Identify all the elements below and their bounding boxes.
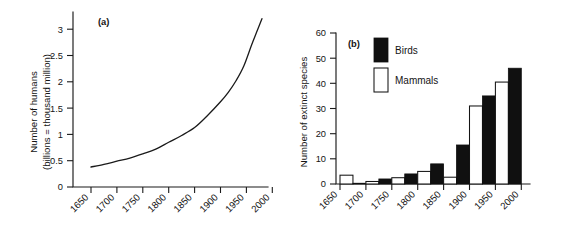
bar-mammals-1750-1800 <box>392 178 405 184</box>
bar-birds-1850-1900 <box>457 145 470 184</box>
y-tick-label-b-10: 10 <box>316 154 326 164</box>
bar-birds-1900-1950 <box>482 96 495 184</box>
x-tick-label-b-1750: 1750 <box>368 189 391 212</box>
y-axis-label-b: Number of extinct species <box>298 57 309 168</box>
y-tick-label-b-40: 40 <box>316 79 326 89</box>
x-tick-label-a-2000: 2000 <box>249 192 272 215</box>
x-tick-label-b-1900: 1900 <box>446 189 469 212</box>
y-axis-ticks-a: 3 2.5 2 1.5 1 0.5 0 <box>50 25 73 193</box>
x-tick-label-b-1850: 1850 <box>420 189 443 212</box>
chart-panel-a: Number of humans (billions = thousand mi… <box>0 0 290 235</box>
bar-mammals-1650-1700 <box>340 175 353 184</box>
bar-birds-1750-1800 <box>405 174 418 184</box>
x-tick-label-a-1900: 1900 <box>197 192 220 215</box>
bar-birds-1950-2000 <box>508 68 521 184</box>
x-tick-label-a-1800: 1800 <box>145 192 168 215</box>
x-tick-label-a-1650: 1650 <box>68 192 91 215</box>
bar-mammals-1950-2000 <box>495 82 508 184</box>
x-axis-ticks-b: 1650 1700 1750 1800 1850 1900 1950 2000 <box>317 184 522 212</box>
y-axis-label-a-line1: Number of humans <box>28 71 39 153</box>
y-tick-label-a-0p5: 0.5 <box>50 156 63 166</box>
bar-mammals-1700-1750 <box>366 181 379 184</box>
y-tick-label-a-0: 0 <box>58 182 63 192</box>
bar-chart-svg: Number of extinct species (b) 60 50 40 3… <box>285 0 567 235</box>
bar-birds-1650-1700 <box>353 183 366 184</box>
bar-mammals-1850-1900 <box>444 177 457 184</box>
x-tick-label-a-1850: 1850 <box>171 192 194 215</box>
line-chart-svg: Number of humans (billions = thousand mi… <box>0 0 290 235</box>
x-tick-label-b-1700: 1700 <box>342 189 365 212</box>
bar-mammals-1800-1850 <box>418 171 431 184</box>
figure-container: Number of humans (billions = thousand mi… <box>0 0 567 235</box>
x-tick-label-b-2000: 2000 <box>498 189 521 212</box>
population-curve <box>91 19 262 167</box>
y-tick-label-a-1: 1 <box>58 130 63 140</box>
y-axis-ticks-b: 60 50 40 30 20 10 0 <box>316 28 336 189</box>
y-tick-label-b-30: 30 <box>316 104 326 114</box>
legend-swatch-birds <box>374 38 388 62</box>
y-tick-label-b-0: 0 <box>321 179 326 189</box>
y-tick-label-a-2p5: 2.5 <box>50 51 63 61</box>
x-tick-label-a-1700: 1700 <box>93 192 116 215</box>
bar-birds-1800-1850 <box>431 164 444 184</box>
y-tick-label-b-20: 20 <box>316 129 326 139</box>
axis-lines-a <box>73 12 268 187</box>
panel-tag-b: (b) <box>348 38 360 49</box>
y-tick-label-b-60: 60 <box>316 28 326 38</box>
chart-panel-b: Number of extinct species (b) 60 50 40 3… <box>285 0 567 235</box>
x-tick-label-b-1650: 1650 <box>317 189 340 212</box>
x-tick-label-b-1800: 1800 <box>394 189 417 212</box>
bar-mammals-1900-1950 <box>470 106 483 184</box>
y-tick-label-b-50: 50 <box>316 54 326 64</box>
x-tick-label-a-1750: 1750 <box>119 192 142 215</box>
x-tick-label-a-1950: 1950 <box>223 192 246 215</box>
legend: Birds Mammals <box>374 38 438 92</box>
y-tick-label-a-3: 3 <box>58 25 63 35</box>
y-tick-label-a-2: 2 <box>58 77 63 87</box>
y-tick-label-a-1p5: 1.5 <box>50 104 63 114</box>
legend-label-birds: Birds <box>395 45 418 56</box>
bar-birds-1700-1750 <box>379 179 392 184</box>
legend-swatch-mammals <box>374 68 388 92</box>
legend-label-mammals: Mammals <box>395 75 438 86</box>
panel-tag-a: (a) <box>98 16 109 27</box>
x-tick-label-b-1950: 1950 <box>472 189 495 212</box>
x-axis-ticks-a: 1650 1700 1750 1800 1850 1900 1950 2000 <box>68 187 273 215</box>
